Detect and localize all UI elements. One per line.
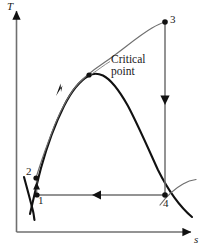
- process-2-3-curve: [36, 22, 165, 178]
- process-4-1-direction-arrow-icon: [92, 190, 101, 199]
- state-3-dot: [162, 19, 168, 25]
- critical-point-annotation: Critical point: [111, 53, 146, 77]
- process-3-4-group: [160, 22, 169, 195]
- state-4-label: 4: [163, 198, 169, 210]
- ts-diagram-figure: T s 1 2 3 4 Critical point: [0, 0, 205, 250]
- process-1-2-direction-arrow-icon: [33, 182, 40, 190]
- process-3-4-direction-arrow-icon: [160, 96, 169, 106]
- critical-point-annotation-line2: point: [111, 65, 146, 77]
- process-2-3-group: [36, 22, 165, 178]
- critical-point-leader-line: [91, 62, 110, 75]
- process-4-1-group: [37, 190, 165, 199]
- ts-diagram-canvas: [0, 0, 205, 250]
- state-1-label: 1: [38, 195, 44, 207]
- process-2-3-direction-arrow-icon: [56, 83, 63, 96]
- y-axis-label: T: [7, 1, 13, 13]
- state-2-label: 2: [26, 166, 32, 178]
- state-3-label: 3: [170, 14, 176, 26]
- state-2-dot: [33, 175, 38, 180]
- critical-point-annotation-line1: Critical: [111, 53, 146, 65]
- state-point-markers: [33, 19, 167, 198]
- critical-point-dot: [86, 72, 91, 77]
- x-axis-label: s: [194, 234, 198, 246]
